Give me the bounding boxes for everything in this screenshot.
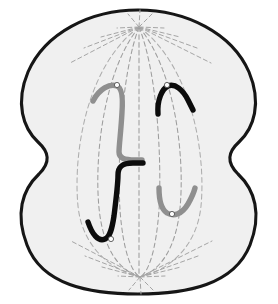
centromere-grey-lower-right (169, 211, 174, 216)
cell-diagram-canvas (0, 0, 278, 304)
centromere-black-lower-left (108, 236, 113, 241)
mitosis-figure (0, 0, 278, 304)
centromere-black-upper-right (164, 82, 169, 87)
centromere-grey-upper-left (114, 82, 119, 87)
